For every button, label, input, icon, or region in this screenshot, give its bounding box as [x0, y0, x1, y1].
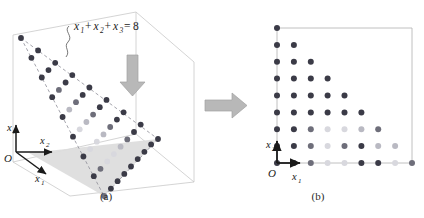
equation-sub-3: 3: [119, 26, 124, 35]
axis-label-x3: x: [6, 122, 12, 133]
equation-plus-2: +: [105, 20, 112, 32]
axis-label-x2-2d-sub: 2: [272, 145, 276, 153]
axis-label-x1-2d: x: [291, 171, 297, 182]
axis-label-x1-2d-sub: 1: [298, 177, 302, 185]
figure-svg: x 1 + x 2 + x 3 = 8 x: [0, 0, 424, 218]
equation-sub-2: 2: [100, 26, 104, 35]
equation-rhs: 8: [133, 20, 139, 32]
axis-label-origin-a: O: [4, 152, 12, 164]
axis-label-x3-sub: 3: [12, 128, 17, 136]
axis-label-x1: x: [34, 173, 40, 184]
equation-term-3: x: [112, 20, 119, 32]
axis-label-x2-sub: 2: [46, 141, 50, 149]
axis-label-x1-sub: 1: [41, 179, 45, 187]
equation-term-2: x: [93, 20, 100, 32]
equation-sub-1: 1: [81, 26, 85, 35]
axis-label-origin-b: O: [268, 167, 276, 179]
axis-label-x2-2d: x: [265, 139, 271, 150]
caption-panel-b: (b): [212, 190, 424, 202]
equation-plus-1: +: [85, 20, 92, 32]
axis-label-x2: x: [39, 135, 45, 146]
figure-container: x 1 + x 2 + x 3 = 8 x: [0, 0, 424, 218]
equation-term-1: x: [73, 20, 80, 32]
equation-equals: =: [124, 20, 131, 32]
caption-panel-a: (a): [0, 190, 212, 202]
